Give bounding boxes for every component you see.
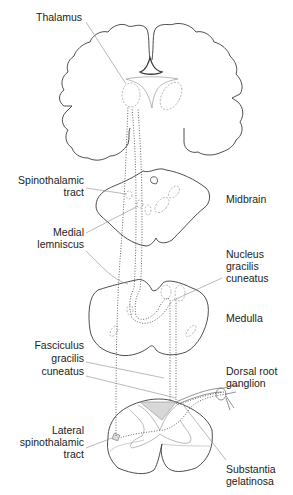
label-substantia-line2: gelatinosa [226, 475, 274, 487]
label-substantia-line1: Substantia [226, 463, 276, 475]
label-fasciculus-line1: Fasciculus [34, 339, 84, 351]
midbrain-nuclei [126, 184, 182, 215]
medulla-nuclei [108, 285, 197, 338]
label-nucleus-line3: cuneatus [226, 272, 269, 284]
ascending-tracts [116, 106, 226, 438]
thalamus-region [122, 77, 186, 114]
lateral-spinothalamic-marker [112, 433, 120, 441]
cerebrum-section [60, 23, 243, 160]
label-medial-line1: Medial [53, 226, 84, 238]
label-spinothalamic-line2: tract [64, 186, 84, 198]
label-fasciculus-line2: gracilis [51, 352, 84, 364]
label-lateral-line3: tract [64, 448, 84, 460]
label-lateral-line1: Lateral [52, 424, 84, 436]
label-medial-line2: lemniscus [37, 238, 84, 250]
label-fasciculus-line3: cuneatus [41, 365, 84, 377]
label-midbrain: Midbrain [226, 193, 266, 205]
label-medulla: Medulla [226, 312, 263, 324]
label-spinothalamic-line1: Spinothalamic [18, 174, 84, 186]
label-drg-line1: Dorsal root [226, 365, 277, 377]
label-thalamus: Thalamus [36, 11, 82, 23]
label-nucleus-line1: Nucleus [226, 248, 264, 260]
label-drg-line2: ganglion [226, 377, 266, 389]
midbrain-section [96, 169, 210, 246]
label-lateral-line2: spinothalamic [20, 436, 84, 448]
label-nucleus-line2: gracilis [226, 260, 259, 272]
